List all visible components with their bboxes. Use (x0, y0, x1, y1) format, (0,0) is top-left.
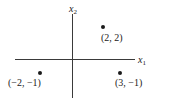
coordinate-plane: x1 x2 (2, 2) (−2, −1) (3, −1) (0, 0, 187, 101)
point-label: (−2, −1) (8, 78, 41, 88)
x1-axis-label: x1 (138, 55, 146, 67)
x1-axis (15, 59, 135, 60)
point-marker (38, 71, 42, 75)
point-marker (118, 71, 122, 75)
point-marker (101, 25, 105, 29)
x2-axis (72, 14, 73, 98)
x2-axis-label: x2 (69, 4, 77, 16)
point-label: (3, −1) (115, 78, 142, 88)
point-label: (2, 2) (101, 33, 123, 43)
